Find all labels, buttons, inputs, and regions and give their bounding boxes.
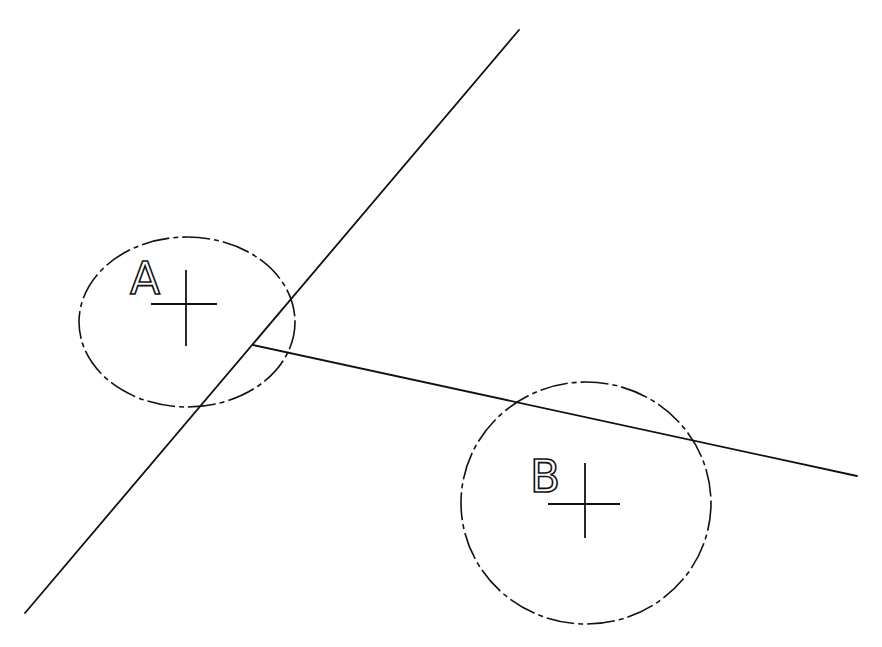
diagonal-line (25, 30, 519, 613)
label-b: B (530, 451, 560, 502)
center-mark-a (151, 270, 217, 346)
circle-b (461, 382, 711, 624)
geometry-diagram: A B (0, 0, 882, 647)
circle-a (79, 237, 295, 407)
label-a: A (130, 253, 160, 304)
